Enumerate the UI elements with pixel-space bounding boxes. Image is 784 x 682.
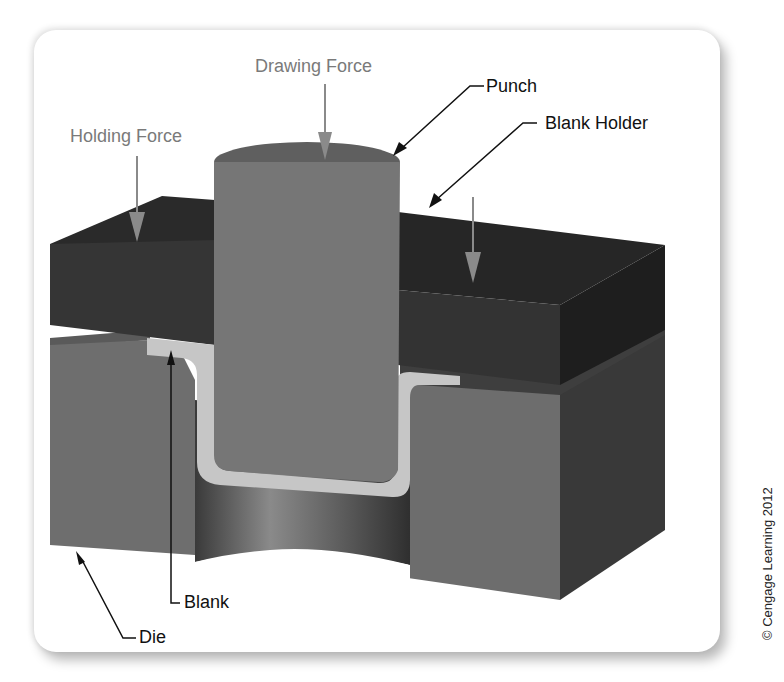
copyright-notice: © Cengage Learning 2012 xyxy=(760,487,775,640)
blank-holder-leader xyxy=(429,123,537,208)
label-blank-holder: Blank Holder xyxy=(545,113,648,134)
punch-leader xyxy=(393,86,484,156)
label-blank: Blank xyxy=(184,592,229,613)
die-leader xyxy=(76,551,136,638)
punch xyxy=(214,142,400,482)
label-holding-force: Holding Force xyxy=(70,126,182,147)
deep-drawing-illustration xyxy=(0,0,784,682)
label-drawing-force: Drawing Force xyxy=(255,56,372,77)
label-punch: Punch xyxy=(486,76,537,97)
label-die: Die xyxy=(139,627,166,648)
